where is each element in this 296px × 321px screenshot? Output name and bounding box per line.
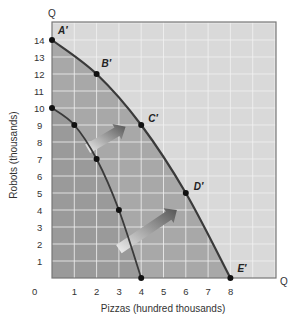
data-point bbox=[138, 122, 144, 128]
y-tick-label: 11 bbox=[34, 86, 44, 97]
x-tick-label: 2 bbox=[94, 286, 99, 297]
x-axis-title: Pizzas (hundred thousands) bbox=[101, 303, 226, 314]
x-axis-end-label: Q bbox=[280, 276, 288, 287]
data-point bbox=[183, 190, 189, 196]
point-label: D′ bbox=[194, 181, 204, 192]
x-tick-label: 4 bbox=[139, 286, 144, 297]
x-tick-label: 8 bbox=[228, 286, 233, 297]
y-axis-end-label: Q bbox=[48, 8, 56, 19]
ppf-chart: A′B′C′D′E′0123456781234567891011121314QQ… bbox=[0, 0, 296, 321]
x-tick-label: 1 bbox=[72, 286, 77, 297]
x-tick-label: 6 bbox=[183, 286, 188, 297]
data-point bbox=[227, 275, 233, 281]
y-tick-label: 7 bbox=[37, 154, 42, 165]
data-point bbox=[49, 105, 55, 111]
y-tick-label: 5 bbox=[37, 188, 42, 199]
plot-area: A′B′C′D′E′0123456781234567891011121314QQ… bbox=[8, 8, 288, 314]
data-point bbox=[94, 156, 100, 162]
x-tick-label: 0 bbox=[32, 286, 37, 297]
y-tick-label: 10 bbox=[34, 103, 45, 114]
point-label: A′ bbox=[57, 25, 68, 36]
point-label: B′ bbox=[102, 58, 112, 69]
y-tick-label: 1 bbox=[37, 256, 42, 267]
data-point bbox=[138, 275, 144, 281]
y-tick-label: 6 bbox=[37, 171, 42, 182]
y-tick-label: 12 bbox=[34, 69, 45, 80]
data-point bbox=[94, 71, 100, 77]
data-point bbox=[71, 122, 77, 128]
y-tick-label: 9 bbox=[37, 120, 42, 131]
x-tick-label: 5 bbox=[161, 286, 166, 297]
y-tick-label: 8 bbox=[37, 137, 42, 148]
point-label: C′ bbox=[148, 113, 158, 124]
data-point bbox=[116, 207, 122, 213]
x-tick-label: 7 bbox=[206, 286, 211, 297]
x-tick-label: 3 bbox=[116, 286, 121, 297]
y-tick-label: 4 bbox=[37, 205, 42, 216]
point-label: E′ bbox=[237, 263, 247, 274]
y-tick-label: 13 bbox=[34, 52, 45, 63]
y-tick-label: 2 bbox=[37, 239, 42, 250]
data-point bbox=[49, 37, 55, 43]
y-tick-label: 3 bbox=[37, 222, 42, 233]
y-tick-label: 14 bbox=[34, 35, 45, 46]
y-axis-title: Robots (thousands) bbox=[8, 111, 19, 198]
